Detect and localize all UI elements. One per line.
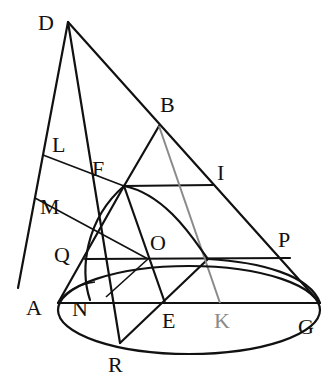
line-F-B [124,126,159,186]
label-O: O [150,230,166,255]
label-A: A [26,295,42,320]
label-G: G [298,314,314,339]
label-L: L [52,132,65,157]
label-N: N [72,296,88,321]
label-R: R [108,352,123,377]
label-D: D [38,10,54,35]
label-I: I [217,160,224,185]
label-B: B [160,92,175,117]
base-ellipse [58,266,320,354]
label-F: F [92,156,104,181]
line-Q-P [85,258,290,259]
label-P: P [278,227,290,252]
line-L-F [43,155,124,186]
geometry-diagram: D B L F I M Q O P A N E K G R [0,0,332,389]
label-M: M [40,194,60,219]
label-K: K [214,308,230,333]
label-Q: Q [54,242,70,267]
label-E: E [162,308,175,333]
line-N-O [106,259,148,297]
line-F-I [124,185,213,186]
